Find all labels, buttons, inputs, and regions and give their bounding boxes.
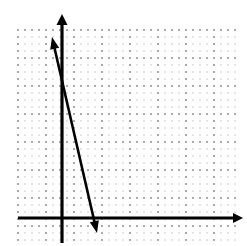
coordinate-plane	[0, 0, 247, 246]
figure-canvas	[0, 0, 247, 246]
